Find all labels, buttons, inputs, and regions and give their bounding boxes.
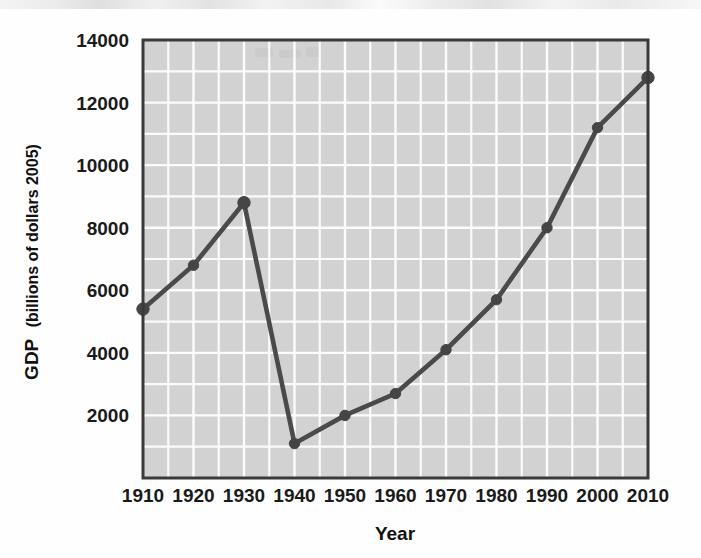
gdp-line-chart: 2000400060008000100001200014000 19101920… — [0, 0, 701, 558]
y-axis-title-units: (billions of dollars 2005) — [24, 144, 41, 327]
data-point-1950 — [340, 410, 350, 420]
x-tick-1990: 1990 — [526, 485, 568, 506]
y-tick-2000: 2000 — [87, 405, 129, 426]
data-point-1960 — [390, 388, 400, 398]
x-tick-1960: 1960 — [374, 485, 416, 506]
data-point-1940 — [289, 438, 299, 448]
y-axis-title-main: GDP — [21, 338, 42, 380]
x-tick-1930: 1930 — [223, 485, 265, 506]
x-tick-1970: 1970 — [425, 485, 467, 506]
data-point-1970 — [441, 345, 451, 355]
y-tick-12000: 12000 — [76, 93, 129, 114]
x-tick-1950: 1950 — [324, 485, 366, 506]
x-tick-1940: 1940 — [273, 485, 315, 506]
y-axis-title: GDP (billions of dollars 2005) — [21, 144, 42, 380]
x-tick-1910: 1910 — [122, 485, 164, 506]
figure-container: 2000400060008000100001200014000 19101920… — [0, 0, 701, 558]
y-tick-14000: 14000 — [76, 30, 129, 51]
y-tick-6000: 6000 — [87, 280, 129, 301]
x-tick-2000: 2000 — [576, 485, 618, 506]
data-point-1930 — [238, 196, 250, 208]
y-tick-4000: 4000 — [87, 343, 129, 364]
data-point-2000 — [592, 122, 602, 132]
data-point-1920 — [188, 260, 198, 270]
x-axis-tick-labels: 1910192019301940195019601970198019902000… — [122, 485, 669, 506]
y-tick-8000: 8000 — [87, 218, 129, 239]
data-point-1990 — [542, 223, 552, 233]
x-tick-2010: 2010 — [627, 485, 669, 506]
data-point-1980 — [491, 294, 501, 304]
y-tick-10000: 10000 — [76, 155, 129, 176]
x-tick-1920: 1920 — [172, 485, 214, 506]
y-axis-tick-labels: 2000400060008000100001200014000 — [76, 30, 129, 426]
x-axis-title: Year — [375, 523, 416, 544]
svg-text:GDP (billions of dolla: GDP (billions of dollars 2005) — [21, 144, 42, 380]
x-tick-1980: 1980 — [475, 485, 517, 506]
